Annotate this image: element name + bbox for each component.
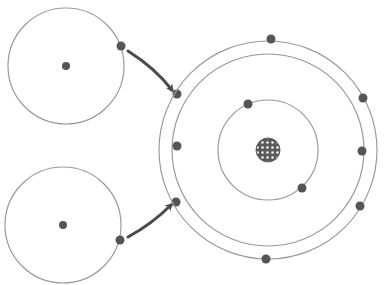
electron-transfer-diagram (0, 0, 389, 285)
nucleus (256, 138, 280, 162)
nucleus-dot (59, 221, 67, 229)
donor-atoms (5, 8, 126, 283)
transfer-arrows (128, 51, 172, 237)
valence-electron (117, 42, 126, 51)
donor-atom-bottom (5, 167, 125, 283)
electron (356, 202, 365, 211)
electron (298, 184, 307, 193)
acceptor-atom (159, 35, 377, 264)
donor-atom-top (8, 8, 126, 124)
electron (359, 94, 368, 103)
electron (262, 255, 271, 264)
valence-electron (116, 236, 125, 245)
electron (267, 35, 276, 44)
transfer-arrow (128, 51, 172, 90)
electron (358, 147, 367, 156)
electron (173, 142, 182, 151)
electron (244, 100, 253, 109)
nucleus-dot (62, 62, 70, 70)
transfer-arrow (128, 205, 171, 237)
